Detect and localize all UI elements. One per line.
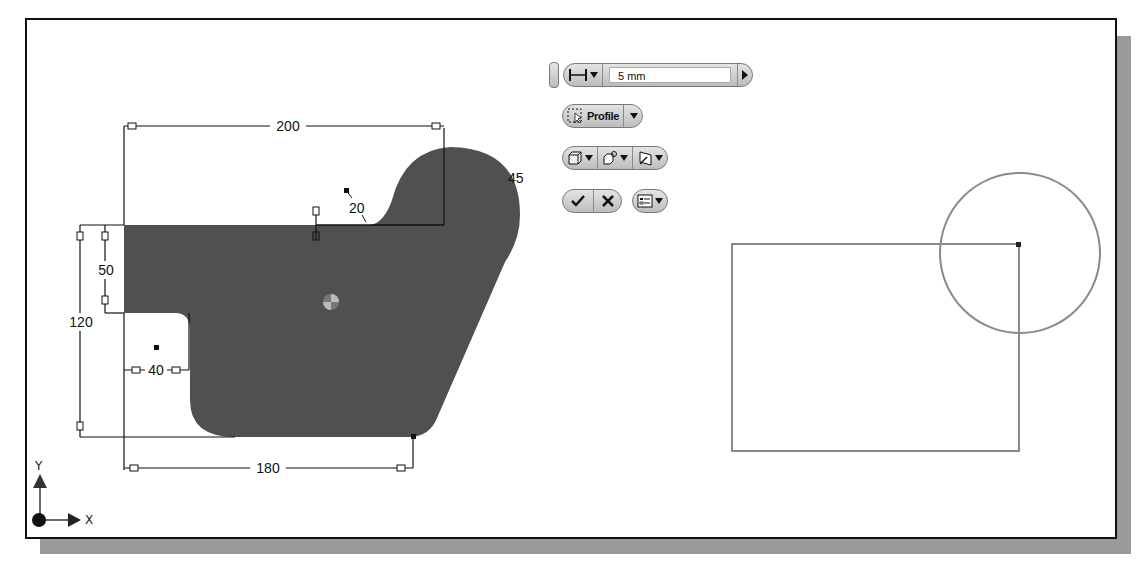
- sketch-rectangle[interactable]: [732, 244, 1019, 451]
- dimension-40[interactable]: 40: [124, 313, 189, 470]
- output-type-button[interactable]: [563, 147, 597, 169]
- dimension-180[interactable]: 180: [124, 434, 416, 477]
- ok-button[interactable]: [563, 190, 593, 212]
- extrude-direction-icon: [637, 150, 653, 166]
- dimension-fillet-20-label: 20: [349, 200, 365, 216]
- new-solid-button[interactable]: [597, 147, 632, 169]
- profile-selector: Profile: [562, 104, 643, 128]
- ok-cancel-group: [562, 189, 622, 213]
- profile-select-icon: [567, 108, 585, 124]
- dimension-fillet-45-label[interactable]: 45: [508, 170, 524, 186]
- dimension-50[interactable]: 50: [96, 225, 124, 313]
- extents-dropdown-button[interactable]: [564, 64, 602, 86]
- distance-input[interactable]: 5 mm: [609, 67, 731, 83]
- profile-dropdown-button[interactable]: [623, 105, 642, 127]
- options-list-icon: [637, 194, 653, 208]
- chevron-down-icon: [655, 155, 663, 161]
- chevron-down-icon: [630, 113, 638, 119]
- cancel-button[interactable]: [593, 190, 621, 212]
- chevron-down-icon: [655, 198, 663, 204]
- dimension-fillet-20[interactable]: 20: [344, 188, 366, 222]
- sketch-origin-marker: [323, 294, 339, 310]
- dimension-120-label: 120: [69, 314, 93, 330]
- extrude-profile-region[interactable]: [124, 147, 520, 437]
- mini-toolbar-grip[interactable]: [549, 62, 559, 88]
- chevron-down-icon: [590, 72, 598, 78]
- axis-x-label: X: [85, 513, 93, 527]
- close-icon: [602, 195, 614, 207]
- dimension-40-label: 40: [148, 362, 164, 378]
- new-solid-icon: [602, 150, 618, 166]
- distance-control: 5 mm: [563, 63, 753, 87]
- options-dropdown[interactable]: [632, 189, 668, 213]
- checkmark-icon: [571, 195, 585, 207]
- chevron-right-icon: [742, 70, 748, 80]
- direction-button[interactable]: [632, 147, 667, 169]
- distance-extents-icon: [568, 68, 588, 82]
- operation-toolbar: [562, 146, 668, 170]
- axis-y-label: Y: [34, 459, 43, 473]
- axis-triad: Y X: [32, 459, 93, 527]
- chevron-down-icon: [585, 155, 593, 161]
- dimension-180-label: 180: [256, 460, 280, 476]
- chevron-down-icon: [620, 155, 628, 161]
- profile-label: Profile: [587, 110, 619, 122]
- mini-toolbar-distance-row: 5 mm: [549, 62, 753, 88]
- distance-more-button[interactable]: [737, 64, 752, 86]
- solid-output-icon: [567, 150, 583, 166]
- dimension-50-label: 50: [98, 262, 114, 278]
- dimension-200-label: 200: [276, 118, 300, 134]
- profile-button[interactable]: Profile: [563, 105, 623, 127]
